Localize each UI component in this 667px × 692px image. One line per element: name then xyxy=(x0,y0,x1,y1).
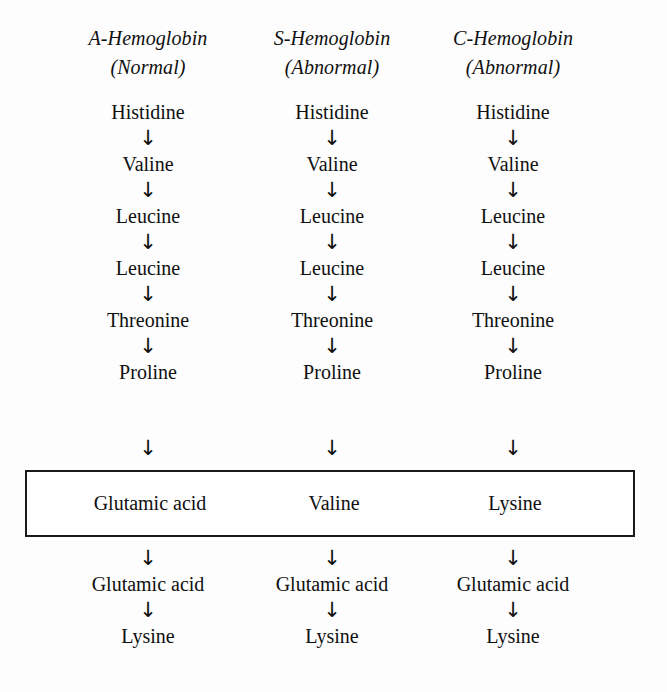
residue-label: Histidine xyxy=(48,100,248,125)
residue-label: Lysine xyxy=(48,624,248,649)
residue-label: Lysine xyxy=(232,624,432,649)
residue-label: Threonine xyxy=(48,308,248,333)
column-header-a-hemoglobin: A-Hemoglobin (Normal) xyxy=(48,24,248,82)
residue-label: Proline xyxy=(48,360,248,385)
down-arrow-icon: ↓ xyxy=(48,125,248,152)
down-arrow-icon: ↓ xyxy=(232,125,432,152)
column-subtitle: (Normal) xyxy=(48,53,248,82)
residue-label: Histidine xyxy=(413,100,613,125)
sequence-column-c-hemoglobin-top: Histidine ↓ Valine ↓ Leucine ↓ Leucine ↓… xyxy=(413,100,613,385)
residue-label: Leucine xyxy=(413,256,613,281)
column-title: C-Hemoglobin xyxy=(413,24,613,53)
down-arrow-icon: ↓ xyxy=(413,333,613,360)
sequence-column-c-hemoglobin-bottom: Glutamic acid ↓ Lysine xyxy=(413,572,613,649)
down-arrow-icon: ↓ xyxy=(413,281,613,308)
variant-residue-s-hemoglobin: Valine xyxy=(234,472,434,535)
down-arrow-icon: ↓ xyxy=(48,333,248,360)
down-arrow-icon: ↓ xyxy=(232,177,432,204)
residue-label: Threonine xyxy=(232,308,432,333)
down-arrow-icon: ↓ xyxy=(128,548,168,569)
column-header-s-hemoglobin: S-Hemoglobin (Abnormal) xyxy=(232,24,432,82)
down-arrow-icon: ↓ xyxy=(48,229,248,256)
sequence-column-s-hemoglobin-bottom: Glutamic acid ↓ Lysine xyxy=(232,572,432,649)
down-arrow-icon: ↓ xyxy=(413,125,613,152)
down-arrow-icon: ↓ xyxy=(413,597,613,624)
down-arrow-icon: ↓ xyxy=(493,438,533,459)
variant-residue-c-hemoglobin: Lysine xyxy=(415,472,615,535)
down-arrow-icon: ↓ xyxy=(312,548,352,569)
residue-label: Valine xyxy=(232,152,432,177)
down-arrow-icon: ↓ xyxy=(232,333,432,360)
residue-label: Histidine xyxy=(232,100,432,125)
residue-label: Lysine xyxy=(413,624,613,649)
column-header-c-hemoglobin: C-Hemoglobin (Abnormal) xyxy=(413,24,613,82)
down-arrow-icon: ↓ xyxy=(232,281,432,308)
down-arrow-icon: ↓ xyxy=(413,177,613,204)
down-arrow-icon: ↓ xyxy=(493,548,533,569)
residue-label: Valine xyxy=(48,152,248,177)
column-title: A-Hemoglobin xyxy=(48,24,248,53)
residue-label: Leucine xyxy=(232,204,432,229)
column-subtitle: (Abnormal) xyxy=(232,53,432,82)
residue-label: Glutamic acid xyxy=(48,572,248,597)
hemoglobin-sequence-diagram: A-Hemoglobin (Normal) S-Hemoglobin (Abno… xyxy=(0,0,667,692)
sequence-column-s-hemoglobin-top: Histidine ↓ Valine ↓ Leucine ↓ Leucine ↓… xyxy=(232,100,432,385)
down-arrow-icon: ↓ xyxy=(413,229,613,256)
residue-label: Leucine xyxy=(232,256,432,281)
down-arrow-icon: ↓ xyxy=(312,438,352,459)
down-arrow-icon: ↓ xyxy=(232,229,432,256)
sequence-column-a-hemoglobin-bottom: Glutamic acid ↓ Lysine xyxy=(48,572,248,649)
residue-label: Leucine xyxy=(48,204,248,229)
column-subtitle: (Abnormal) xyxy=(413,53,613,82)
variant-residue-box: Glutamic acid Valine Lysine xyxy=(25,470,635,537)
residue-label: Valine xyxy=(413,152,613,177)
down-arrow-icon: ↓ xyxy=(48,281,248,308)
residue-label: Proline xyxy=(232,360,432,385)
residue-label: Threonine xyxy=(413,308,613,333)
down-arrow-icon: ↓ xyxy=(48,177,248,204)
variant-residue-a-hemoglobin: Glutamic acid xyxy=(50,472,250,535)
down-arrow-icon: ↓ xyxy=(128,438,168,459)
residue-label: Proline xyxy=(413,360,613,385)
column-title: S-Hemoglobin xyxy=(232,24,432,53)
residue-label: Glutamic acid xyxy=(413,572,613,597)
down-arrow-icon: ↓ xyxy=(48,597,248,624)
residue-label: Leucine xyxy=(48,256,248,281)
column-headers: A-Hemoglobin (Normal) S-Hemoglobin (Abno… xyxy=(0,24,667,86)
residue-label: Glutamic acid xyxy=(232,572,432,597)
down-arrow-icon: ↓ xyxy=(232,597,432,624)
sequence-column-a-hemoglobin-top: Histidine ↓ Valine ↓ Leucine ↓ Leucine ↓… xyxy=(48,100,248,385)
residue-label: Leucine xyxy=(413,204,613,229)
